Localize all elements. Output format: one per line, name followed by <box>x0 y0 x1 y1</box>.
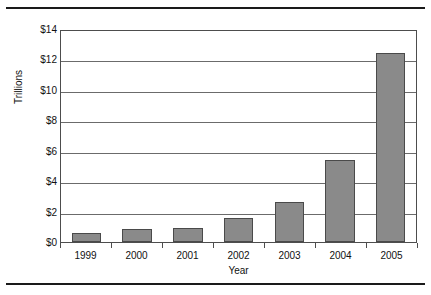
bars-container <box>61 31 416 242</box>
bar <box>275 202 304 242</box>
bar-slot <box>162 31 213 242</box>
bar-slot <box>264 31 315 242</box>
x-axis-tick-labels: 1999200020012002200320042005 <box>60 250 417 261</box>
x-axis-tick-label: 2002 <box>213 250 264 261</box>
x-axis-tick-label: 2001 <box>162 250 213 261</box>
x-axis-tick-label: 2000 <box>111 250 162 261</box>
y-axis-tick-labels: $0$2$4$6$8$10$12$14 <box>0 30 57 243</box>
x-axis-title: Year <box>60 265 417 276</box>
bar-slot <box>315 31 366 242</box>
x-axis-tick <box>111 243 112 248</box>
x-axis-tick <box>315 243 316 248</box>
bar <box>173 228 202 242</box>
y-axis-tick-label: $0 <box>3 238 57 248</box>
bar-chart-figure: Trillions $0$2$4$6$8$10$12$14 1999200020… <box>0 0 431 295</box>
x-axis-tick-label: 2003 <box>264 250 315 261</box>
top-horizontal-rule <box>6 7 425 9</box>
bar <box>325 160 354 242</box>
x-axis-tick <box>366 243 367 248</box>
bar-slot <box>112 31 163 242</box>
x-axis-tick-label: 2004 <box>315 250 366 261</box>
x-axis-tick <box>60 243 61 248</box>
bar <box>376 53 405 242</box>
x-axis-tick <box>417 243 418 248</box>
y-axis-tick-label: $14 <box>3 25 57 35</box>
bar-slot <box>365 31 416 242</box>
bar-slot <box>213 31 264 242</box>
bar-slot <box>61 31 112 242</box>
y-axis-tick-label: $4 <box>3 177 57 187</box>
x-axis-tick-label: 2005 <box>366 250 417 261</box>
y-axis-tick-label: $12 <box>3 55 57 65</box>
y-axis-tick-label: $8 <box>3 116 57 126</box>
bar <box>72 233 101 242</box>
y-axis-tick-label: $6 <box>3 147 57 157</box>
y-axis-tick-label: $10 <box>3 86 57 96</box>
bar <box>122 229 151 242</box>
plot-area <box>60 30 417 243</box>
x-axis-tick-label: 1999 <box>60 250 111 261</box>
x-axis-tick <box>162 243 163 248</box>
bar <box>224 218 253 242</box>
x-axis-tick <box>264 243 265 248</box>
x-axis-tick <box>213 243 214 248</box>
bottom-horizontal-rule <box>6 283 425 285</box>
y-axis-tick-label: $2 <box>3 208 57 218</box>
